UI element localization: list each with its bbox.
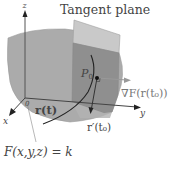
- curve-label: r(t): [35, 103, 57, 117]
- z-axis-arrow-icon: [23, 10, 28, 17]
- gradient-arrow-icon: [124, 78, 131, 84]
- origin-label: 0: [25, 100, 30, 108]
- z-axis-label: z: [22, 1, 28, 10]
- point-p0: [95, 76, 99, 80]
- x-axis-label: x: [3, 116, 8, 126]
- point-subscript: 0: [88, 73, 92, 81]
- gradient-label: ∇F(r(t₀)): [121, 87, 168, 100]
- tangent-plane-diagram: Tangent plane z x y 0 P0 r(t) ∇F(r(t₀)) …: [0, 0, 174, 169]
- surface-equation-label: F(x,y,z) = k: [3, 145, 73, 159]
- title-label: Tangent plane: [60, 2, 150, 17]
- y-axis-label: y: [139, 108, 146, 118]
- tangent-vector-label: r′(t₀): [87, 121, 111, 133]
